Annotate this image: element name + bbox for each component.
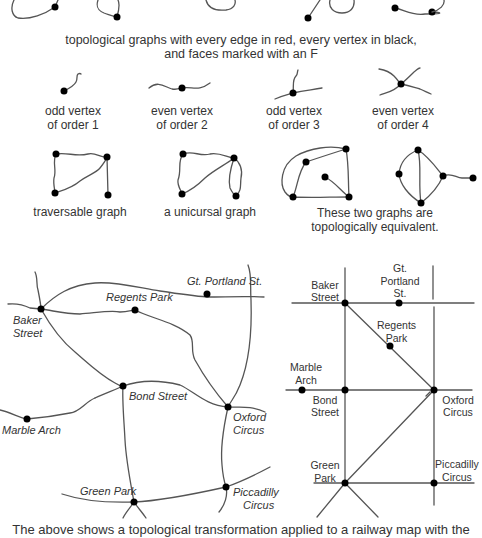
vertex-label-order2-line2: of order 2 xyxy=(132,118,232,132)
vertex-order-figures xyxy=(61,68,432,99)
unicursal-graph xyxy=(178,151,242,200)
left-map-piccadilly-1: Piccadilly xyxy=(233,486,279,499)
right-map-gt-3: St. xyxy=(380,287,420,300)
equivalent-graphs-label-line2: topologically equivalent. xyxy=(300,220,450,234)
vertex-label-order2-line1: even vertex xyxy=(132,104,232,118)
left-map-baker-street-1: Baker xyxy=(13,314,42,327)
top-caption-line1: topological graphs with every edge in re… xyxy=(0,33,482,48)
traversable-graph-label: traversable graph xyxy=(20,205,140,219)
top-graphs xyxy=(12,0,444,22)
left-map-piccadilly-2: Circus xyxy=(243,499,274,512)
right-map-gt-1: Gt. xyxy=(380,262,420,275)
right-map-bond-2: Street xyxy=(305,406,345,419)
traversable-graph xyxy=(52,151,112,199)
vertex-label-order4-line1: even vertex xyxy=(353,104,453,118)
left-map-green-park: Green Park xyxy=(80,485,136,498)
right-map-regents-2: Park xyxy=(374,332,419,345)
unicursal-graph-label: a unicursal graph xyxy=(150,205,270,219)
right-map-green-1: Green xyxy=(305,459,345,472)
left-map-oxford-circus-1: Oxford xyxy=(233,411,266,424)
right-map-piccadilly-1: Piccadilly xyxy=(434,458,480,471)
vertex-label-order1-line2: of order 1 xyxy=(23,118,123,132)
equivalent-graph-b xyxy=(396,147,477,207)
vertex-label-order3-line1: odd vertex xyxy=(244,104,344,118)
equivalent-graph-a xyxy=(282,146,352,201)
left-map-marble-arch: Marble Arch xyxy=(2,424,61,437)
left-map-regents-park: Regents Park xyxy=(106,291,173,304)
right-map-regents-1: Regents xyxy=(374,319,419,332)
vertex-label-order1-line1: odd vertex xyxy=(23,104,123,118)
top-caption-line2: and faces marked with an F xyxy=(0,47,482,62)
vertex-label-order4-line2: of order 4 xyxy=(353,118,453,132)
right-map-baker-2: Street xyxy=(305,291,345,304)
left-map-bond-street: Bond Street xyxy=(129,390,187,403)
right-map-piccadilly-2: Circus xyxy=(434,471,480,484)
vertex-label-order3-line2: of order 3 xyxy=(244,118,344,132)
right-map-marble-1: Marble xyxy=(286,361,326,374)
left-map-baker-street-2: Street xyxy=(13,327,42,340)
right-map-green-2: Park xyxy=(305,472,345,485)
right-map-marble-2: Arch xyxy=(286,374,326,387)
left-map-gt-portland: Gt. Portland St. xyxy=(187,275,262,288)
left-map-oxford-circus-2: Circus xyxy=(233,424,264,437)
bottom-caption: The above shows a topological transforma… xyxy=(0,523,482,538)
right-map-oxford-2: Circus xyxy=(438,406,478,419)
equivalent-graphs-label-line1: These two graphs are xyxy=(300,206,450,220)
